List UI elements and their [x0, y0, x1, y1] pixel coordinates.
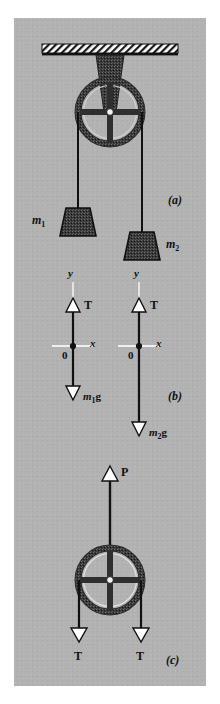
tension-arrowhead-left [71, 628, 87, 642]
panel-c-artwork [71, 466, 149, 642]
panel-a-artwork [42, 44, 178, 260]
mass-2-label: m2 [166, 238, 179, 253]
panel-a-label: (a) [168, 194, 182, 206]
tension-arrowhead-right [133, 628, 149, 642]
mass-1-label: m1 [32, 214, 45, 229]
ceiling-hatched [42, 44, 178, 55]
weight-arrowhead-2 [132, 422, 146, 436]
panel-b-label: (b) [168, 390, 182, 402]
tension-label-1: T [84, 299, 92, 311]
figure-artwork [0, 0, 220, 704]
tension-label-right: T [136, 650, 144, 662]
mass-1-block [60, 208, 96, 236]
tension-arrowhead-1 [66, 298, 80, 312]
tension-label-2: T [150, 299, 158, 311]
origin-dot-1 [70, 343, 76, 349]
x-axis-label-2: x [156, 338, 162, 349]
mass-2-block [124, 232, 160, 260]
pulley-wheel-a [78, 80, 142, 144]
pulley-wheel-c [78, 548, 142, 612]
weight-label-2: m2g [149, 427, 167, 441]
physics-figure: m1 m2 (a) y T x 0 m1g y T x 0 m2g (b) P … [0, 0, 220, 704]
origin-label-1: 0 [62, 350, 68, 361]
y-axis-label-1: y [68, 268, 73, 279]
tension-arrowhead-2 [132, 298, 146, 312]
weight-arrowhead-1 [66, 386, 80, 400]
y-axis-label-2: y [134, 268, 139, 279]
origin-dot-2 [136, 343, 142, 349]
x-axis-label-1: x [90, 338, 96, 349]
weight-label-1: m1g [83, 391, 101, 405]
panel-c-label: (c) [166, 654, 179, 666]
tension-label-left: T [74, 650, 82, 662]
p-arrowhead [102, 466, 118, 481]
origin-label-2: 0 [128, 350, 134, 361]
p-force-label: P [121, 466, 128, 478]
